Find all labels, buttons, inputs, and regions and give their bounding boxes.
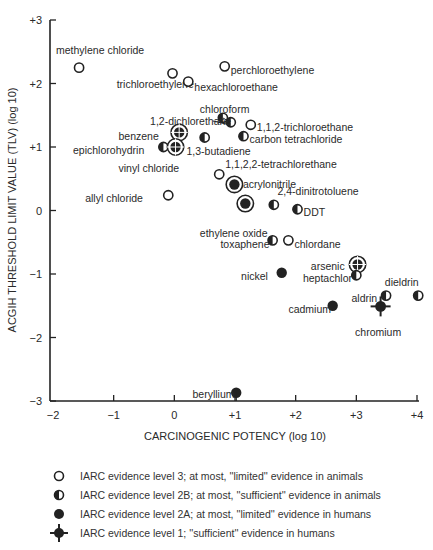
x-tick-label: −1: [107, 409, 120, 421]
legend-item-level-1: IARC evidence level 1; ''sufficient'' ev…: [48, 523, 381, 542]
data-point: 1,2-dichlorethane: [150, 115, 235, 127]
x-axis-label: CARCINOGENIC POTENCY (log 10): [144, 430, 326, 442]
y-tick-label: −2: [29, 332, 42, 344]
legend-item-level-3: IARC evidence level 3; at most, ''limite…: [48, 466, 381, 485]
data-point: toxaphene: [220, 236, 277, 250]
point-label: chromium: [355, 326, 401, 338]
filled-circle-icon: [277, 268, 287, 278]
data-point: ethylene oxide: [200, 195, 268, 238]
open-circle-icon: [184, 77, 193, 86]
point-label: 1,2-dichlorethane: [150, 115, 231, 127]
data-point: hexachloroethane: [184, 77, 278, 93]
data-point: cadmium: [288, 301, 337, 315]
data-point: aldrin: [351, 291, 390, 304]
point-label: cadmium: [288, 303, 331, 315]
open-circle-icon: [284, 236, 293, 245]
y-tick-label: +3: [29, 14, 42, 26]
point-label: 1,1,2-trichloroethane: [257, 121, 353, 133]
point-label: DDT: [304, 206, 326, 218]
legend: IARC evidence level 3; at most, ''limite…: [48, 466, 381, 542]
y-tick-label: −1: [29, 268, 42, 280]
y-tick-label: +1: [29, 141, 42, 153]
data-point: beryllium: [193, 388, 242, 400]
crosshair-filled-circle-icon: [48, 524, 70, 542]
point-label: nickel: [241, 270, 268, 282]
point-label: trichloroethylene: [117, 78, 194, 90]
x-tick-label: +3: [350, 409, 363, 421]
legend-label: IARC evidence level 1; ''sufficient'' ev…: [80, 527, 335, 539]
data-point: carbon tetrachloride: [239, 132, 343, 146]
y-axis-label: ACGIH THRESHOLD LIMIT VALUE (TLV) (log 1…: [6, 88, 18, 333]
point-label: chlordane: [294, 238, 340, 250]
point-label: 2,4-dinitrotoluene: [277, 185, 358, 197]
data-point: DDT: [293, 205, 326, 219]
open-circle-icon: [246, 120, 255, 129]
point-label: aldrin: [351, 292, 377, 304]
x-tick-label: 0: [171, 409, 177, 421]
open-circle-icon: [215, 170, 224, 179]
point-label: benzene: [119, 130, 159, 142]
data-point: trichloroethylene: [117, 69, 194, 90]
point-label: beryllium: [193, 388, 235, 400]
point-label: dieldrin: [385, 276, 419, 288]
open-circle-icon: [164, 191, 173, 200]
data-point: epichlorohydrin: [73, 142, 168, 155]
data-points: methylene chloridetrichloroethylenehexac…: [56, 44, 423, 401]
point-label: vinyl chloride: [119, 162, 180, 174]
x-tick-label: +4: [411, 409, 424, 421]
legend-item-level-2b: IARC evidence level 2B; at most, ''suffi…: [48, 485, 381, 504]
x-tick-label: +2: [289, 409, 302, 421]
data-point: chlordane: [284, 236, 341, 250]
x-tick-label: −2: [47, 409, 60, 421]
point-label: chloroform: [200, 103, 250, 115]
point-label: allyl chloride: [85, 192, 143, 204]
legend-label: IARC evidence level 3; at most, ''limite…: [80, 470, 363, 482]
y-tick-label: +2: [29, 78, 42, 90]
legend-item-level-2a: IARC evidence level 2A; at most, ''limit…: [48, 504, 381, 523]
y-tick-label: 0: [36, 205, 42, 217]
open-circle-icon: [48, 467, 70, 485]
data-point: perchloroethylene: [220, 62, 314, 76]
point-label: carbon tetrachloride: [250, 133, 343, 145]
half-filled-circle-icon: [48, 486, 70, 504]
point-label: epichlorohydrin: [73, 144, 144, 156]
point-label: toxaphene: [220, 238, 269, 250]
open-circle-icon: [220, 62, 229, 71]
point-label: hexachloroethane: [194, 81, 278, 93]
open-circle-icon: [74, 63, 83, 72]
crosshair-filled-circle-icon: [375, 301, 386, 312]
chart-axes: +3+2+10−1−2−3−2−10+1+2+3+4: [29, 14, 423, 421]
data-point: methylene chloride: [56, 44, 144, 72]
y-tick-label: −3: [29, 395, 42, 407]
data-point: 1,1,2-trichloroethane: [246, 120, 353, 133]
data-point: nickel: [241, 268, 287, 282]
point-label: 1,1,2,2-tetrachlorethane: [225, 158, 337, 170]
legend-label: IARC evidence level 2A; at most, ''limit…: [80, 508, 371, 520]
data-point: heptachlor: [303, 271, 361, 285]
filled-circle-icon: [48, 505, 70, 523]
point-label: 1,3-butadiene: [186, 145, 250, 157]
data-point: allyl chloride: [85, 191, 173, 204]
point-label: heptachlor: [303, 272, 353, 284]
x-tick-label: +1: [229, 409, 242, 421]
point-label: methylene chloride: [56, 44, 144, 56]
point-label: perchloroethylene: [231, 64, 315, 76]
point-label: arsenic: [311, 260, 345, 272]
legend-label: IARC evidence level 2B; at most, ''suffi…: [80, 489, 381, 501]
